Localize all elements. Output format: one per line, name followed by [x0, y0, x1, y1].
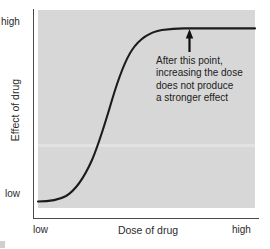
- x-axis-title: Dose of drug: [88, 224, 208, 236]
- plot-panel: [38, 10, 255, 208]
- y-tick-high: high: [1, 16, 20, 27]
- y-tick-low: low: [5, 188, 20, 199]
- x-tick-low: low: [33, 224, 48, 235]
- plateau-annotation: After this point, increasing the dose do…: [156, 55, 243, 105]
- x-axis-line: [33, 218, 259, 219]
- scan-band: [38, 144, 255, 147]
- dose-response-figure: high low low high Effect of drug Dose of…: [0, 0, 270, 249]
- annotation-line-3: does not produce: [156, 80, 243, 92]
- page-edge-artifact: [0, 241, 5, 248]
- annotation-line-2: increasing the dose: [156, 67, 243, 79]
- annotation-line-1: After this point,: [156, 55, 243, 67]
- x-tick-high: high: [232, 224, 251, 235]
- y-axis-title: Effect of drug: [9, 60, 21, 160]
- annotation-line-4: a stronger effect: [156, 92, 243, 104]
- y-axis-line: [33, 9, 34, 219]
